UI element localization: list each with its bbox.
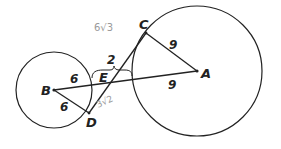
geometry-diagram: B A C D E 6 6 9 9 2 6√3 3√2 [0,0,281,149]
pencil-note-top: 6√3 [94,22,113,33]
point-C-dot [145,32,148,35]
point-A-dot [195,69,198,72]
measure-BE: 6 [70,72,78,86]
pencil-note-bottom: 3√2 [95,93,115,109]
gap-brace [92,66,132,78]
point-B-dot [52,88,55,91]
label-B: B [41,83,51,98]
label-D: D [86,115,97,130]
label-C: C [139,17,149,32]
measure-AC: 9 [169,38,177,52]
point-D-dot [88,112,91,115]
label-A: A [200,66,211,81]
measure-gap: 2 [107,53,115,67]
measure-AE: 9 [168,78,176,92]
label-E: E [99,70,108,85]
measure-BD: 6 [60,100,68,114]
